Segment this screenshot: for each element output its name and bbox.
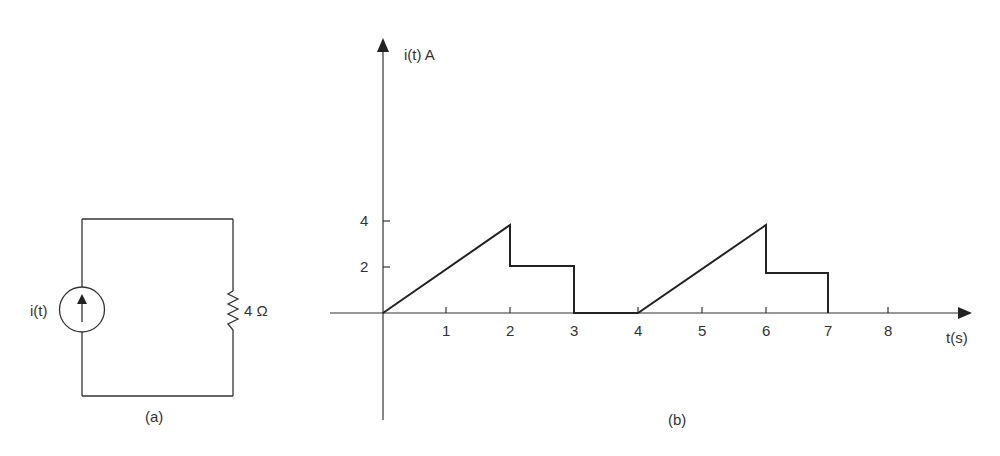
circuit-diagram: [60, 219, 239, 396]
source-label: i(t): [30, 302, 48, 319]
graph-caption: (b): [668, 411, 686, 428]
x-tick-label-5: 5: [698, 322, 706, 339]
x-tick-label-8: 8: [884, 322, 892, 339]
x-tick-label-6: 6: [762, 322, 770, 339]
x-tick-label-3: 3: [570, 322, 578, 339]
y-tick-label-2: 2: [360, 258, 368, 275]
resistor-icon: [228, 291, 238, 330]
x-tick-label-1: 1: [442, 322, 450, 339]
x-axis-label: t(s): [946, 329, 968, 346]
x-tick-label-4: 4: [634, 322, 642, 339]
circuit-caption: (a): [145, 408, 163, 425]
y-axis-label: i(t) A: [404, 46, 435, 63]
x-tick-label-7: 7: [824, 322, 832, 339]
graph-axes: [330, 48, 962, 420]
y-axis-arrow-icon: [377, 38, 389, 52]
x-tick-label-2: 2: [506, 322, 514, 339]
resistor-label: 4 Ω: [244, 302, 268, 319]
y-tick-label-4: 4: [360, 212, 368, 229]
current-arrow-head-icon: [77, 294, 87, 304]
current-waveform: [383, 225, 828, 313]
x-axis-arrow-icon: [958, 307, 972, 319]
figure: i(t) 4 Ω (a) i(t) A t(s) 4 2 1 2 3 4 5 6…: [0, 0, 1000, 456]
